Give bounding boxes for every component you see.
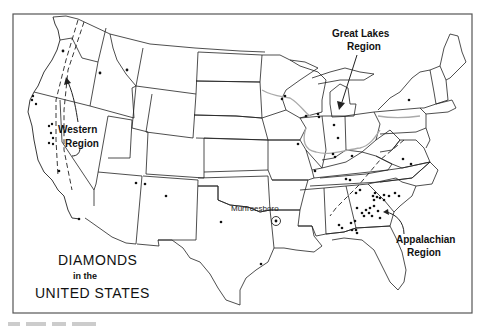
region-label-line2: Region — [407, 247, 441, 258]
us-map: Murfreesboro Western Region Great Lakes … — [0, 0, 485, 328]
title-line1: DIAMONDS — [58, 252, 137, 268]
map-frame — [13, 14, 472, 313]
region-label-line1: Appalachian — [396, 234, 455, 245]
region-label-line2: Region — [347, 41, 381, 52]
region-label-line1: Western — [58, 124, 97, 135]
rivers — [262, 90, 420, 153]
murfreesboro-marker: Murfreesboro — [231, 204, 281, 226]
title-line3: UNITED STATES — [35, 285, 150, 301]
diamond-locations — [31, 50, 413, 266]
place-label-murfreesboro: Murfreesboro — [231, 204, 279, 213]
diamonds-map-figure: Murfreesboro Western Region Great Lakes … — [0, 0, 485, 328]
region-label-line2: Region — [65, 138, 99, 149]
title-line2: in the — [73, 271, 97, 281]
arrowhead-icon — [337, 101, 345, 110]
arrowhead-icon — [383, 209, 389, 215]
map-title: DIAMONDS in the UNITED STATES — [35, 252, 150, 301]
clipped-caption-text — [8, 322, 208, 328]
region-label-line1: Great Lakes — [332, 28, 390, 39]
